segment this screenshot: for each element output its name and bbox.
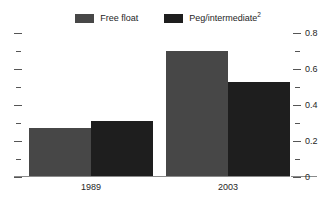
legend-item-peg-intermediate: Peg/intermediate2 [164, 13, 261, 23]
legend-footnote-marker: 2 [257, 11, 261, 18]
bar [228, 82, 290, 177]
axis-tick [16, 123, 21, 124]
y-axis-line [290, 33, 291, 177]
y-axis-tick-label: 0.4 [305, 101, 318, 110]
axis-tick [14, 141, 22, 142]
axis-tick [295, 159, 300, 160]
x-axis-line [14, 176, 317, 177]
legend-swatch-peg-intermediate [164, 14, 183, 23]
axis-tick [293, 69, 301, 70]
axis-tick [295, 51, 300, 52]
y-axis-tick-label: 0.2 [305, 137, 318, 146]
legend-label-peg-intermediate: Peg/intermediate2 [189, 13, 261, 23]
axis-tick [295, 123, 300, 124]
y-axis-tick-label: 0 [305, 173, 310, 182]
x-axis-tick-label: 1989 [66, 182, 116, 192]
legend-label-peg-intermediate-text: Peg/intermediate [189, 13, 257, 23]
axis-tick [293, 33, 301, 34]
y-axis-tick-label: 0.6 [305, 65, 318, 74]
y-axis-tick-label: 0.8 [305, 29, 318, 38]
axis-tick [14, 69, 22, 70]
bar [29, 128, 91, 177]
axis-tick [295, 87, 300, 88]
axis-tick [14, 33, 22, 34]
axis-tick [14, 177, 22, 178]
chart-legend: Free float Peg/intermediate2 [0, 9, 336, 27]
bar [166, 51, 228, 177]
legend-item-free-float: Free float [75, 13, 138, 23]
axis-tick [14, 105, 22, 106]
plot-area [29, 33, 290, 177]
axis-tick [16, 51, 21, 52]
axis-tick [293, 177, 301, 178]
axis-tick [293, 141, 301, 142]
legend-swatch-free-float [75, 14, 94, 23]
legend-label-free-float: Free float [100, 13, 138, 23]
bar [91, 121, 153, 177]
axis-tick [293, 105, 301, 106]
bar-chart: Free float Peg/intermediate2 00.20.40.60… [0, 0, 336, 203]
axis-tick [16, 87, 21, 88]
axis-tick [16, 159, 21, 160]
x-axis-tick-label: 2003 [203, 182, 253, 192]
